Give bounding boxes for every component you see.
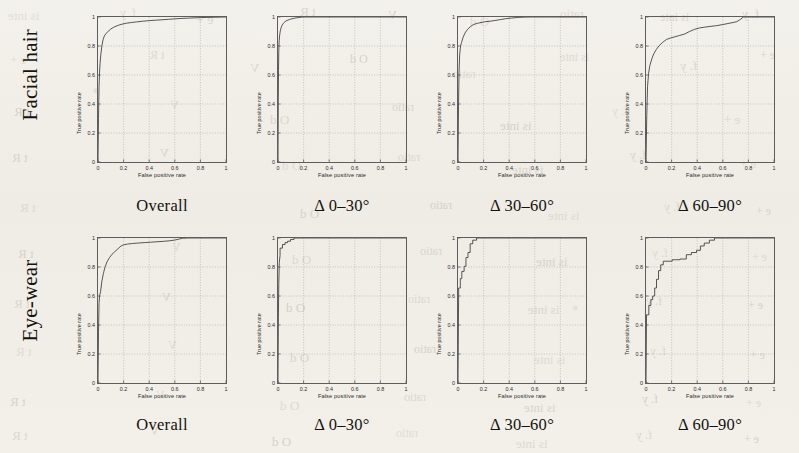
y-tick-label: 0.4 — [81, 101, 95, 107]
y-tick-label: 0.4 — [441, 101, 455, 107]
x-tick-label: 1 — [767, 165, 781, 171]
roc-curve — [278, 17, 406, 162]
y-tick-label: 0.8 — [441, 43, 455, 49]
y-tick-label: 0.2 — [81, 351, 95, 357]
plot-area — [457, 16, 587, 163]
y-tick-label: 0.2 — [629, 130, 643, 136]
subplot-facial-hair-2: 00.20.40.60.8100.20.40.60.81False positi… — [0, 0, 799, 453]
subplot-eye-wear-2: 00.20.40.60.8100.20.40.60.81False positi… — [0, 0, 799, 453]
x-axis-label: False positive rate — [457, 393, 587, 399]
y-tick-label: 0.4 — [629, 322, 643, 328]
x-tick-label: 0.8 — [741, 165, 755, 171]
roc-curve — [646, 17, 774, 162]
y-axis-label: True positive rate — [256, 313, 262, 355]
x-tick-label: 0.8 — [373, 165, 387, 171]
x-tick-label: 0.6 — [716, 386, 730, 392]
roc-curve — [646, 238, 774, 383]
y-tick-label: 0.2 — [629, 351, 643, 357]
y-tick-label: 0.4 — [81, 322, 95, 328]
y-axis-label: True positive rate — [624, 92, 630, 134]
plot-area — [457, 237, 587, 384]
x-tick-label: 0.4 — [322, 386, 336, 392]
column-caption: Δ 0–30° — [252, 415, 432, 435]
y-tick-label: 1 — [629, 235, 643, 241]
x-tick-label: 0.6 — [716, 165, 730, 171]
y-tick-label: 0 — [629, 159, 643, 165]
x-tick-label: 0.4 — [142, 386, 156, 392]
x-tick-label: 0.2 — [297, 386, 311, 392]
x-tick-label: 0.2 — [477, 386, 491, 392]
y-axis-label: True positive rate — [76, 313, 82, 355]
roc-curve — [98, 238, 226, 383]
y-tick-label: 0.6 — [81, 72, 95, 78]
row-label-facial-hair: Facial hair — [0, 78, 60, 103]
x-tick-label: 0.4 — [322, 165, 336, 171]
y-tick-label: 0.2 — [441, 351, 455, 357]
x-tick-label: 0.4 — [690, 165, 704, 171]
roc-plot — [646, 238, 774, 383]
roc-curve — [98, 17, 226, 162]
y-tick-label: 0.6 — [261, 72, 275, 78]
y-tick-label: 0.6 — [441, 72, 455, 78]
roc-plot — [458, 17, 586, 162]
x-tick-label: 0.8 — [373, 386, 387, 392]
y-tick-label: 0.2 — [261, 351, 275, 357]
row-label-text: Eye-wear — [18, 281, 43, 341]
x-tick-label: 0.2 — [117, 386, 131, 392]
x-tick-label: 0.2 — [297, 165, 311, 171]
x-tick-label: 0.2 — [665, 386, 679, 392]
column-caption: Δ 0–30° — [252, 196, 432, 216]
roc-plot — [278, 17, 406, 162]
x-tick-label: 0.6 — [528, 386, 542, 392]
y-axis-label: True positive rate — [624, 313, 630, 355]
y-tick-label: 1 — [81, 235, 95, 241]
x-tick-label: 1 — [219, 386, 233, 392]
roc-curve — [458, 238, 586, 383]
y-tick-label: 0.8 — [261, 43, 275, 49]
roc-plot — [646, 17, 774, 162]
y-tick-label: 1 — [441, 235, 455, 241]
x-tick-label: 0.6 — [168, 165, 182, 171]
y-tick-label: 1 — [81, 14, 95, 20]
roc-curve — [458, 17, 586, 162]
subplot-facial-hair-0: 00.20.40.60.8100.20.40.60.81False positi… — [0, 0, 799, 453]
x-tick-label: 1 — [579, 386, 593, 392]
row-label-eye-wear: Eye-wear — [0, 299, 60, 324]
y-tick-label: 1 — [629, 14, 643, 20]
plot-area — [645, 237, 775, 384]
x-tick-label: 1 — [219, 165, 233, 171]
column-caption: Overall — [72, 196, 252, 216]
x-tick-label: 0.6 — [528, 165, 542, 171]
x-tick-label: 0.6 — [348, 386, 362, 392]
x-tick-label: 0.2 — [117, 165, 131, 171]
roc-plot — [278, 238, 406, 383]
x-tick-label: 0 — [451, 165, 465, 171]
y-tick-label: 0.2 — [261, 130, 275, 136]
y-axis-label: True positive rate — [436, 313, 442, 355]
x-tick-label: 0 — [91, 386, 105, 392]
y-tick-label: 0.8 — [441, 264, 455, 270]
x-tick-label: 0.8 — [193, 165, 207, 171]
subplot-eye-wear-0: 00.20.40.60.8100.20.40.60.81False positi… — [0, 0, 799, 453]
column-caption: Δ 60–90° — [620, 196, 799, 216]
x-tick-label: 0.4 — [502, 386, 516, 392]
x-tick-label: 0.8 — [553, 165, 567, 171]
y-axis-label: True positive rate — [256, 92, 262, 134]
x-tick-label: 1 — [767, 386, 781, 392]
y-tick-label: 0 — [441, 380, 455, 386]
column-caption: Δ 60–90° — [620, 415, 799, 435]
x-axis-label: False positive rate — [97, 172, 227, 178]
x-tick-label: 1 — [399, 165, 413, 171]
y-tick-label: 0.4 — [261, 322, 275, 328]
column-caption: Overall — [72, 415, 252, 435]
y-tick-label: 0.8 — [81, 43, 95, 49]
y-tick-label: 0 — [261, 380, 275, 386]
y-tick-label: 0.4 — [261, 101, 275, 107]
x-tick-label: 0 — [271, 386, 285, 392]
x-tick-label: 0.2 — [477, 165, 491, 171]
y-tick-label: 0.4 — [441, 322, 455, 328]
y-tick-label: 0.6 — [629, 293, 643, 299]
y-tick-label: 1 — [441, 14, 455, 20]
x-tick-label: 0.2 — [665, 165, 679, 171]
y-tick-label: 0.6 — [81, 293, 95, 299]
